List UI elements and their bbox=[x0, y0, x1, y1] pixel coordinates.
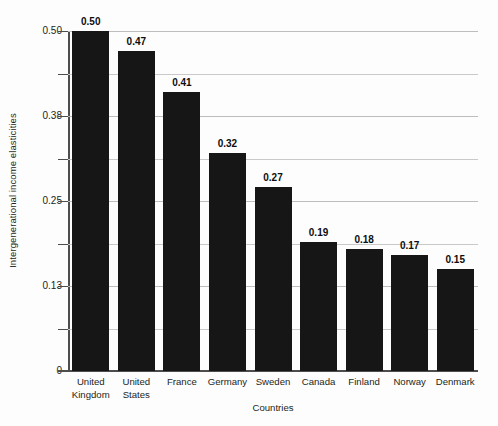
bar-value-label: 0.32 bbox=[197, 139, 257, 149]
bar[interactable] bbox=[346, 249, 383, 371]
y-axis-title: Intergenerational income elasticities bbox=[0, 0, 24, 380]
bar[interactable] bbox=[437, 269, 474, 371]
y-axis-tick-mark bbox=[58, 286, 68, 287]
y-axis-tick-label: 0 bbox=[24, 366, 62, 376]
bar-value-label: 0.27 bbox=[243, 173, 303, 183]
y-axis-tick-label: 0.25 bbox=[24, 196, 62, 206]
y-axis-tick-labels: 0.500.380.250.130 bbox=[22, 0, 62, 426]
bar-value-label: 0.47 bbox=[106, 37, 166, 47]
bar[interactable] bbox=[255, 187, 292, 371]
y-axis-tick-label: 0.38 bbox=[24, 111, 62, 121]
bar-value-label: 0.50 bbox=[61, 17, 121, 27]
bar[interactable] bbox=[391, 255, 428, 371]
y-axis-tick-mark bbox=[58, 31, 68, 32]
y-axis-tick-mark bbox=[58, 74, 68, 75]
y-axis-tick-label: 0.50 bbox=[24, 26, 62, 36]
y-axis-tick-mark bbox=[58, 116, 68, 117]
y-axis-title-text: Intergenerational income elasticities bbox=[7, 113, 18, 268]
y-axis-tick-mark bbox=[58, 159, 68, 160]
x-axis-tick-label: Denmark bbox=[428, 376, 482, 389]
bar-value-label: 0.17 bbox=[380, 241, 440, 251]
bar[interactable] bbox=[72, 31, 109, 371]
y-axis-tick-mark bbox=[58, 201, 68, 202]
y-axis-tick-label: 0.13 bbox=[24, 281, 62, 291]
plot-area bbox=[68, 31, 478, 371]
y-axis-tick-mark bbox=[58, 329, 68, 330]
y-axis-tick-mark bbox=[58, 371, 68, 372]
bar[interactable] bbox=[209, 153, 246, 371]
bar-value-label: 0.41 bbox=[152, 78, 212, 88]
bar-chart-figure: Intergenerational income elasticities 0.… bbox=[0, 0, 498, 426]
bar-value-label: 0.15 bbox=[425, 255, 485, 265]
bar[interactable] bbox=[163, 92, 200, 371]
y-axis-tick-mark bbox=[58, 244, 68, 245]
gridline bbox=[68, 31, 478, 32]
bar[interactable] bbox=[300, 242, 337, 371]
bar[interactable] bbox=[118, 51, 155, 371]
x-axis-title: Countries bbox=[68, 402, 478, 413]
